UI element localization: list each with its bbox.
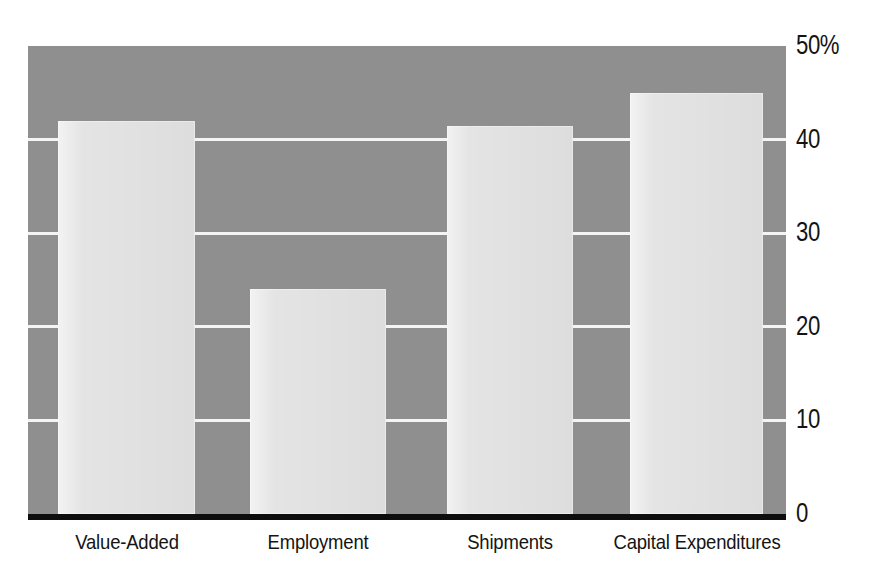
y-tick-label-30: 30 <box>796 219 820 246</box>
bar-employment <box>250 289 386 514</box>
y-tick-label-40: 40 <box>796 126 820 153</box>
x-tick-label-value-added: Value-Added <box>30 527 224 557</box>
y-tick-label-20: 20 <box>796 313 820 340</box>
y-tick-label-0: 0 <box>796 500 808 527</box>
x-axis: Value-AddedEmploymentShipmentsCapital Ex… <box>28 527 786 565</box>
y-tick-label-50: 50% <box>796 32 839 59</box>
bar-shipments <box>447 126 573 514</box>
x-tick-label-capital-expenditures: Capital Expenditures <box>600 527 794 557</box>
plot-area <box>28 46 786 514</box>
x-tick-label-employment: Employment <box>221 527 415 557</box>
y-axis: 01020304050% <box>796 0 879 578</box>
bar-chart-figure: 01020304050% Value-AddedEmploymentShipme… <box>0 0 879 578</box>
x-tick-label-shipments: Shipments <box>413 527 607 557</box>
bar-value-added <box>58 121 195 514</box>
x-axis-baseline <box>28 514 786 520</box>
y-tick-label-10: 10 <box>796 406 820 433</box>
bar-capital-expenditures <box>630 93 763 514</box>
cropped-title-remnant <box>0 0 879 8</box>
